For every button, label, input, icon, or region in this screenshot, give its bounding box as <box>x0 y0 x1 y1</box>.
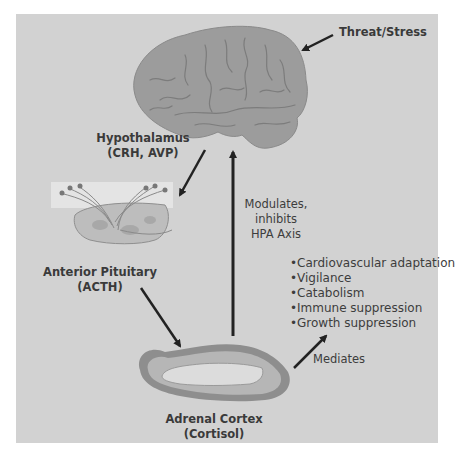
bullet-icon: • <box>290 286 297 301</box>
feedback-line-3: HPA Axis <box>238 227 314 242</box>
brain-icon <box>134 26 308 148</box>
mediates-label: Mediates <box>313 352 365 367</box>
stressor-label-text: Threat/Stress <box>339 25 427 40</box>
adrenal-label: Adrenal Cortex (Cortisol) <box>164 412 264 442</box>
stressor-label: Threat/Stress <box>339 25 427 40</box>
effect-text: Catabolism <box>297 286 364 300</box>
hypothalamus-name: Hypothalamus <box>88 131 198 146</box>
pituitary-hormone: (ACTH) <box>40 280 160 295</box>
feedback-line-1: Modulates, <box>238 197 314 212</box>
bullet-icon: • <box>290 256 297 271</box>
bullet-icon: • <box>290 301 297 316</box>
adrenal-name: Adrenal Cortex <box>164 412 264 427</box>
effects-list: •Cardiovascular adaptation •Vigilance •C… <box>290 256 455 331</box>
feedback-line-2: inhibits <box>238 212 314 227</box>
pituitary-icon <box>51 182 173 244</box>
effect-item: •Vigilance <box>290 271 455 286</box>
effect-text: Cardiovascular adaptation <box>297 256 455 270</box>
effect-item: •Growth suppression <box>290 316 455 331</box>
mediates-label-text: Mediates <box>313 352 365 367</box>
adrenal-icon <box>139 344 290 401</box>
hypothalamus-hormones: (CRH, AVP) <box>88 146 198 161</box>
adrenal-hormone: (Cortisol) <box>164 427 264 442</box>
effect-text: Immune suppression <box>297 301 422 315</box>
effect-item: •Catabolism <box>290 286 455 301</box>
stress-arrow <box>303 35 333 50</box>
pituitary-name: Anterior Pituitary <box>40 265 160 280</box>
effect-item: •Cardiovascular adaptation <box>290 256 455 271</box>
effect-text: Growth suppression <box>297 316 416 330</box>
feedback-label: Modulates, inhibits HPA Axis <box>238 197 314 242</box>
hypothalamus-label: Hypothalamus (CRH, AVP) <box>88 131 198 161</box>
bullet-icon: • <box>290 271 297 286</box>
bullet-icon: • <box>290 316 297 331</box>
pituitary-label: Anterior Pituitary (ACTH) <box>40 265 160 295</box>
effect-text: Vigilance <box>297 271 352 285</box>
pituitary-to-adrenal-arrow <box>141 288 180 346</box>
effect-item: •Immune suppression <box>290 301 455 316</box>
